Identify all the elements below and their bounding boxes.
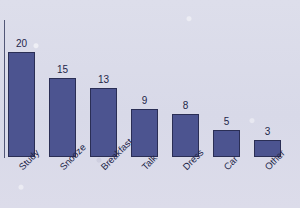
bar-value-label: 8 xyxy=(183,101,189,111)
bar-chart: 20 Study 15 Snooze 13 Breakfast 9 Talk 8… xyxy=(0,0,300,208)
bar-value-label: 13 xyxy=(98,75,109,85)
bar-value-label: 9 xyxy=(142,96,148,106)
bar[interactable] xyxy=(49,78,76,157)
y-axis-line xyxy=(4,20,5,158)
bar-value-label: 15 xyxy=(57,65,68,75)
bar-value-label: 20 xyxy=(16,39,27,49)
plot-area: 20 Study 15 Snooze 13 Breakfast 9 Talk 8… xyxy=(0,0,300,208)
bar[interactable] xyxy=(213,130,240,157)
bar[interactable] xyxy=(131,109,158,157)
bar-value-label: 3 xyxy=(265,127,271,137)
bar-value-label: 5 xyxy=(224,117,230,127)
bar[interactable] xyxy=(8,52,35,157)
bar[interactable] xyxy=(90,88,117,157)
